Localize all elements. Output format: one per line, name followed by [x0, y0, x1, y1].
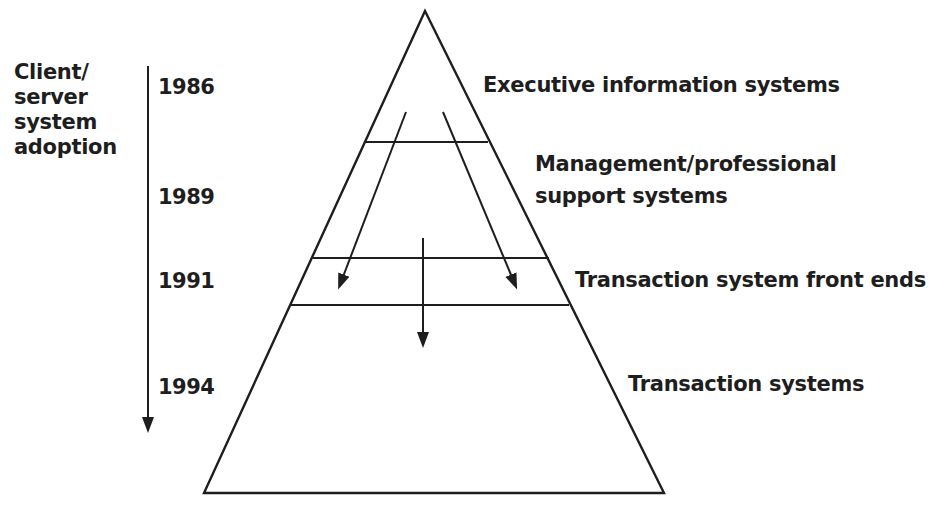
year-1994: 1994	[158, 374, 214, 400]
level-label-transaction: Transaction systems	[628, 371, 864, 397]
level-label-management: Management/professional	[535, 151, 837, 177]
axis-title-line: server	[14, 85, 117, 110]
axis-title-line: system	[14, 110, 117, 135]
level-label-management-line2: support systems	[535, 183, 728, 209]
arrow-left-diagonal	[341, 112, 406, 282]
year-1989: 1989	[158, 184, 214, 210]
axis-title: Client/ server system adoption	[14, 60, 117, 160]
level-label-front-ends: Transaction system front ends	[575, 267, 926, 293]
axis-title-line: adoption	[14, 135, 117, 160]
year-1986: 1986	[158, 74, 214, 100]
axis-title-line: Client/	[14, 60, 117, 85]
arrow-right-diagonal	[443, 112, 514, 282]
level-label-executive: Executive information systems	[483, 72, 840, 98]
year-1991: 1991	[158, 268, 214, 294]
